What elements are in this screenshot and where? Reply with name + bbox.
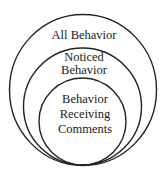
circle-all-behavior: All Behavior: [10, 15, 157, 166]
label-all-behavior: All Behavior: [52, 28, 118, 42]
label-behavior: Behavior: [62, 92, 109, 106]
label-receiving: Receiving: [60, 107, 111, 121]
label-noticed-behavior: Behavior: [61, 63, 108, 77]
nested-circles-diagram: All Behavior Noticed Behavior Behavior R…: [0, 0, 167, 177]
label-comments: Comments: [58, 122, 112, 136]
circle-behavior-receiving-comments: Behavior Receiving Comments: [39, 78, 126, 165]
